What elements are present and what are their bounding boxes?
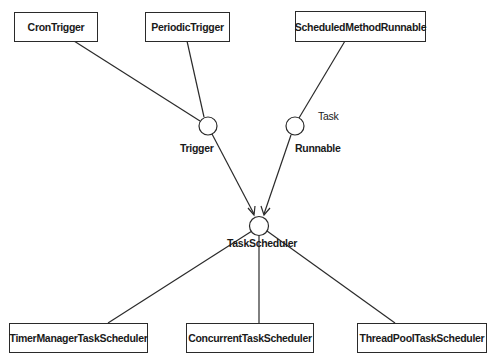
- class-label: ThreadPoolTaskScheduler: [360, 332, 485, 344]
- taskscheduler-interface-circle: [250, 217, 269, 236]
- class-label: CronTrigger: [28, 21, 85, 33]
- interface-label-runnable: Runnable: [295, 142, 340, 154]
- class-label: ScheduledMethodRunnable: [295, 21, 426, 33]
- class-label: PeriodicTrigger: [151, 21, 224, 33]
- edge-runnable-taskscheduler: [264, 135, 291, 214]
- class-box-crontrigger: CronTrigger: [14, 12, 98, 42]
- edge-cron-trigger: [74, 41, 200, 121]
- connector-lines: [0, 0, 492, 364]
- edge-periodic-trigger: [187, 41, 204, 117]
- edge-scheduled-runnable: [299, 41, 345, 118]
- interface-label-taskscheduler: TaskScheduler: [227, 237, 297, 249]
- trigger-interface-circle: [199, 117, 217, 135]
- class-box-timermanagertaskscheduler: TimerManagerTaskScheduler: [9, 323, 148, 353]
- class-box-concurrenttaskscheduler: ConcurrentTaskScheduler: [186, 323, 314, 353]
- annotation-task: Task: [318, 110, 338, 122]
- class-box-periodictrigger: PeriodicTrigger: [145, 12, 230, 42]
- class-box-scheduledmethodrunnable: ScheduledMethodRunnable: [295, 11, 426, 42]
- edge-trigger-taskscheduler: [212, 134, 254, 214]
- class-label: ConcurrentTaskScheduler: [188, 332, 312, 344]
- runnable-interface-circle: [286, 117, 304, 135]
- class-box-threadpooltaskscheduler: ThreadPoolTaskScheduler: [357, 323, 487, 353]
- interface-label-trigger: Trigger: [180, 142, 214, 154]
- class-label: TimerManagerTaskScheduler: [10, 332, 148, 344]
